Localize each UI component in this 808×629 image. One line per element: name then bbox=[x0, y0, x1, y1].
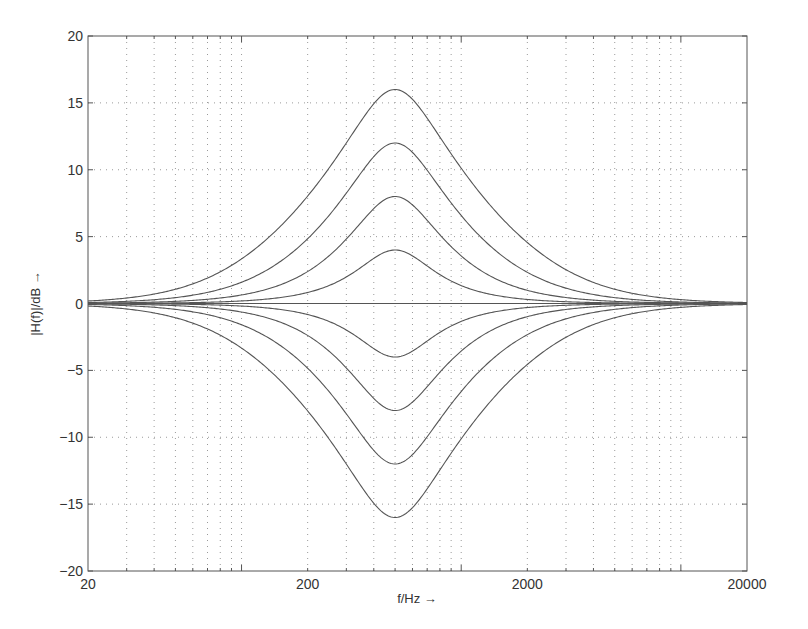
y-tick-label: 15 bbox=[67, 95, 83, 111]
x-tick-label: 20 bbox=[80, 576, 96, 592]
curve-4db bbox=[88, 250, 747, 303]
x-tick-label: 20000 bbox=[728, 576, 767, 592]
x-tick-labels: 20200200020000 bbox=[80, 576, 766, 592]
y-tick-label: 20 bbox=[67, 28, 83, 44]
curve-8db bbox=[88, 197, 747, 304]
y-tick-label: 0 bbox=[75, 296, 83, 312]
y-tick-label: −5 bbox=[67, 362, 83, 378]
curve--16db bbox=[88, 304, 747, 517]
curve-12db bbox=[88, 143, 747, 303]
y-axis-label: |H(f)|/dB → bbox=[28, 271, 43, 336]
y-tick-label: −15 bbox=[59, 496, 83, 512]
x-tick-label: 2000 bbox=[512, 576, 543, 592]
curves bbox=[88, 90, 747, 518]
curve--4db bbox=[88, 304, 747, 357]
x-axis-label: f/Hz → bbox=[397, 591, 437, 606]
y-tick-label: 5 bbox=[75, 229, 83, 245]
x-tick-label: 200 bbox=[296, 576, 320, 592]
frequency-response-chart: −20−15−10−505101520 20200200020000 f/Hz … bbox=[0, 0, 808, 629]
curve--8db bbox=[88, 304, 747, 411]
y-tick-label: 10 bbox=[67, 162, 83, 178]
y-tick-labels: −20−15−10−505101520 bbox=[59, 28, 83, 579]
curve-16db bbox=[88, 90, 747, 303]
curve--12db bbox=[88, 304, 747, 464]
y-tick-label: −10 bbox=[59, 429, 83, 445]
